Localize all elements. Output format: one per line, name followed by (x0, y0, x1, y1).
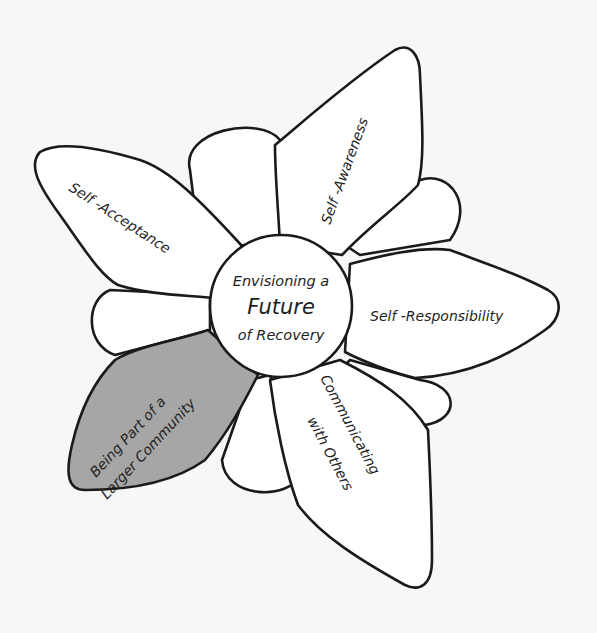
center-title-line3: of Recovery (238, 327, 325, 343)
label-self-responsibility: Self -Responsibility (370, 308, 504, 324)
center-title-line1: Envisioning a (233, 273, 330, 289)
recovery-flower-diagram: Envisioning a Future of Recovery Self -A… (0, 0, 597, 633)
center-title-line2: Future (247, 295, 315, 319)
